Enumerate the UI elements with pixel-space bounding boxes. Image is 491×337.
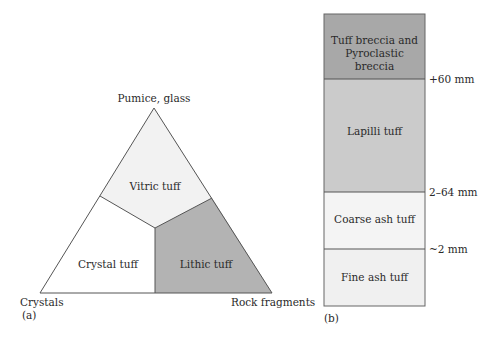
layer-label-line2: Pyroclastic breccia [324, 47, 425, 73]
field-label-vitric-tuff: Vitric tuff [105, 180, 205, 192]
layer-label-fine-ash-tuff: Fine ash tuff [324, 271, 425, 284]
layer-label-coarse-ash-tuff: Coarse ash tuff [324, 213, 425, 226]
layer-label-line1: Tuff breccia and [324, 34, 425, 47]
apex-label-rock-fragments: Rock fragments [231, 296, 315, 308]
field-label-crystal-tuff: Crystal tuff [58, 258, 158, 270]
boundary-label-2-64mm: 2–64 mm [429, 186, 478, 198]
layer-label-tuff-breccia: Tuff breccia and Pyroclastic breccia [324, 34, 425, 73]
field-label-lithic-tuff: Lithic tuff [156, 258, 256, 270]
panel-b-caption: (b) [324, 312, 339, 324]
panel-a-caption: (a) [22, 309, 36, 321]
boundary-label-60mm: +60 mm [429, 73, 474, 85]
apex-label-crystals: Crystals [20, 296, 64, 308]
boundary-label-2mm: ~2 mm [429, 243, 468, 255]
apex-label-pumice-glass: Pumice, glass [104, 92, 204, 104]
layer-label-lapilli-tuff: Lapilli tuff [324, 125, 425, 138]
